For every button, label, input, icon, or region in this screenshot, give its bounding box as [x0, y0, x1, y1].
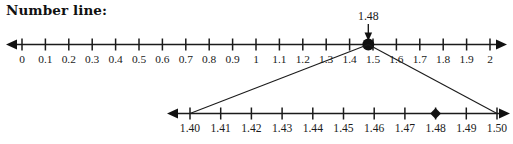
tick-label: 0 — [19, 53, 25, 65]
left-arrowhead-icon — [167, 109, 178, 119]
tick-label: 1.8 — [436, 53, 451, 65]
tick-label: 1.1 — [272, 53, 287, 65]
tick-label: 1.5 — [366, 53, 381, 65]
tick-label: 1.44 — [303, 122, 323, 135]
tick-label: 0.5 — [132, 53, 147, 65]
tick-label: 0.7 — [179, 53, 194, 65]
tick-label: 0.3 — [85, 53, 100, 65]
tick-label: 1.45 — [333, 122, 353, 135]
tick-label: 0.6 — [155, 53, 170, 65]
tick-label: 1.43 — [272, 122, 292, 135]
tick-label: 1.9 — [459, 53, 474, 65]
value-marker-diamond — [430, 108, 441, 119]
zoomed-number-line: 1.401.411.421.431.441.451.461.471.481.49… — [167, 108, 510, 136]
tick-label: 2 — [487, 53, 493, 65]
tick-label: 1.41 — [211, 122, 231, 135]
left-arrowhead-icon — [6, 40, 17, 50]
tick-label: 0.9 — [225, 53, 240, 65]
right-arrowhead-icon — [496, 40, 507, 50]
number-line-svg: 1.48 00.10.20.30.40.50.60.70.80.911.11.2… — [0, 0, 513, 144]
tick-label: 0.1 — [38, 53, 53, 65]
tick-label: 0.4 — [108, 53, 123, 65]
tick-label: 1.42 — [241, 122, 261, 135]
main-number-line: 00.10.20.30.40.50.60.70.80.911.11.21.31.… — [6, 39, 507, 66]
tick-label: 1.6 — [389, 53, 404, 65]
tick-label: 1.46 — [364, 122, 384, 135]
tick-label: 1 — [253, 53, 259, 65]
number-line-figure: Number line: 1.48 00.10.20.30.40.50.60.7… — [0, 0, 513, 144]
tick-label: 1.47 — [395, 122, 415, 135]
tick-label: 1.7 — [413, 53, 428, 65]
tick-label: 1.49 — [456, 122, 476, 135]
tick-label: 1.48 — [425, 122, 445, 135]
down-arrow-icon — [365, 24, 373, 41]
callout-value-label: 1.48 — [358, 9, 379, 23]
tick-label: 0.2 — [62, 53, 77, 65]
tick-label: 0.8 — [202, 53, 217, 65]
tick-label: 1.50 — [487, 122, 507, 135]
tick-label: 1.4 — [342, 53, 357, 65]
right-arrowhead-icon — [499, 109, 510, 119]
tick-label: 1.40 — [180, 122, 200, 135]
tick-label: 1.2 — [296, 53, 311, 65]
